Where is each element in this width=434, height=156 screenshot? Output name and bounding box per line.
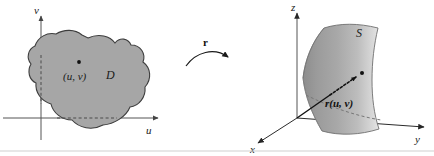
left-panel-group: v u (u, v) D [3,4,158,140]
mapping-arrow-group: r [186,36,228,66]
surface-point-marker [360,71,364,75]
mapping-arrow-curve [186,52,228,66]
v-axis-label: v [34,4,39,16]
figure-container: v u (u, v) D r [0,0,434,156]
position-vector-label: r(u, v) [325,97,353,110]
domain-region-D [28,30,149,128]
z-axis-label: z [290,1,296,13]
surface-label-S: S [356,26,362,40]
x-axis-line [258,118,297,143]
right-panel-group: z y x S r(u, v) [249,1,424,155]
uv-point-marker [77,60,81,64]
figure-svg: v u (u, v) D r [0,0,434,156]
region-label-D: D [105,68,115,82]
y-axis-label: y [414,133,420,145]
mapping-arrow-label: r [203,36,208,48]
x-axis-label: x [249,143,255,155]
u-axis-label: u [146,124,152,136]
uv-point-label: (u, v) [63,70,87,83]
